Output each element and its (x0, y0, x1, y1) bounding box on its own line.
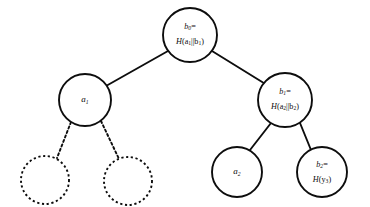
node-a2: a2 (212, 147, 262, 197)
node-b0-circle (163, 8, 217, 62)
node-b0-label-line1: b0= (184, 22, 196, 32)
node-placeholder-right (104, 157, 152, 205)
placeholder-node-layer (21, 156, 152, 205)
edge-a1-to-placeholder-right (101, 121, 119, 159)
node-b1: b1= H(a2||b2) (258, 73, 312, 127)
hash-tree-diagram: b0= H(a1||b1) a1 b1= H(a2||b2) (0, 0, 370, 207)
edge-b1-to-b2 (300, 123, 311, 150)
edge-root-to-a1 (106, 51, 168, 86)
node-b0: b0= H(a1||b1) (163, 8, 217, 62)
node-b2-label-line1: b2= (316, 160, 328, 170)
edge-a1-to-placeholder-left (57, 122, 71, 158)
node-b2-circle (297, 147, 347, 197)
node-placeholder-left (21, 156, 69, 204)
edge-root-to-b1 (212, 51, 267, 85)
node-b2: b2= H(y3) (297, 147, 347, 197)
tree-canvas: b0= H(a1||b1) a1 b1= H(a2||b2) (0, 0, 370, 207)
node-b1-label-line1: b1= (279, 87, 291, 97)
node-a1: a1 (59, 74, 111, 126)
node-b1-circle (258, 73, 312, 127)
edge-b1-to-a2 (250, 123, 271, 150)
node-b2-label-line2: H(y3) (312, 175, 332, 185)
